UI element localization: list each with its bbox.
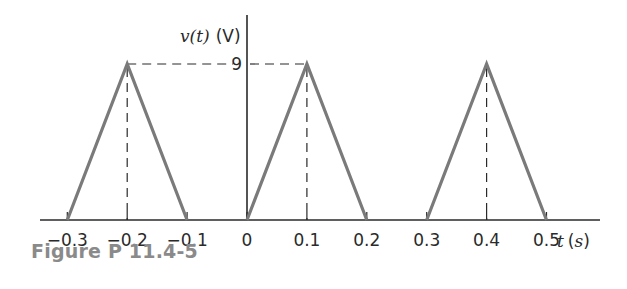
x-axis-label: t(s) [557,231,590,251]
dashed-guides [127,64,486,220]
x-tick-label: 0.1 [293,230,320,250]
x-tick-label: 0.2 [353,230,380,250]
axes [40,15,600,220]
x-ticks [67,212,546,220]
figure-caption: Figure P 11.4-5 [31,240,198,262]
x-tick-label: 0.3 [413,230,440,250]
y-axis-label: v(t)(V) [180,26,241,46]
x-tick-label: 0 [242,230,253,250]
y-tick-label: 9 [231,54,242,74]
x-tick-label: 0.5 [533,230,560,250]
x-tick-label: 0.4 [473,230,500,250]
